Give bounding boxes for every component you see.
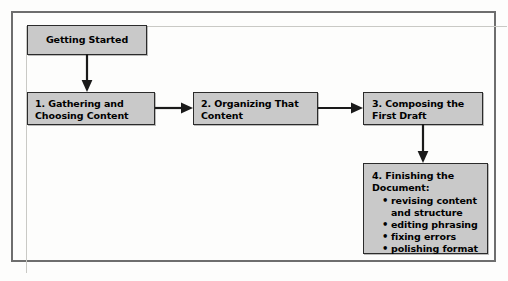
flowchart-node-step-1[interactable]: 1. Gathering and Choosing Content [27, 92, 155, 125]
flowchart-node-getting-started[interactable]: Getting Started [27, 25, 147, 55]
arrow-step3-to-step4 [416, 124, 430, 164]
list-item: fixing errors [382, 231, 487, 243]
node-label-step-3: 3. Composing the First Draft [372, 98, 482, 122]
list-item: editing phrasing [382, 219, 487, 231]
arrow-step1-to-step2 [155, 101, 194, 115]
list-item: polishing format [382, 243, 487, 255]
flowchart-node-step-2[interactable]: 2. Organizing That Content [193, 92, 318, 125]
node-label-step-2: 2. Organizing That Content [201, 98, 317, 122]
node-label-step-1: 1. Gathering and Choosing Content [35, 98, 154, 122]
list-item: revising content and structure [382, 195, 487, 219]
arrow-step2-to-step3 [318, 101, 364, 115]
node-label-getting-started: Getting Started [46, 34, 128, 46]
node-label-step-4: 4. Finishing the Document: [372, 170, 487, 194]
flowchart-node-step-4[interactable]: 4. Finishing the Document: revising cont… [363, 163, 488, 254]
arrow-start-to-step1 [80, 54, 94, 93]
flowchart-node-step-3[interactable]: 3. Composing the First Draft [363, 92, 483, 125]
step-4-bullet-list: revising content and structure editing p… [372, 195, 487, 255]
